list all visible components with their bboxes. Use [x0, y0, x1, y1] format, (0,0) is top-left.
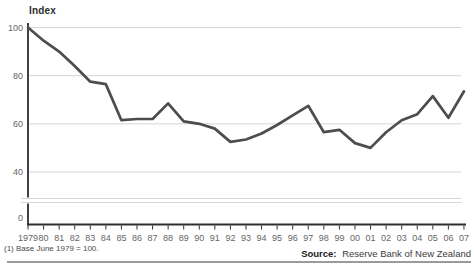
x-tick-label: 90: [194, 233, 204, 243]
x-tick-label: 86: [132, 233, 142, 243]
bottom-divider: [7, 261, 471, 263]
x-tick-label: 83: [85, 233, 95, 243]
y-tick-label: 40: [13, 167, 23, 177]
source-label: Source:: [301, 248, 336, 259]
x-tick-label: 80: [39, 233, 49, 243]
x-tick-label: 93: [241, 233, 251, 243]
y-tick-label: 0: [18, 213, 23, 223]
x-tick-label: 02: [381, 233, 391, 243]
x-tick-label: 92: [225, 233, 235, 243]
x-tick-label: 05: [428, 233, 438, 243]
x-tick-label: 88: [163, 233, 173, 243]
exchange-rate-line-chart: 1979808182838485868788899091929394959697…: [0, 0, 474, 267]
chart-figure: 1979808182838485868788899091929394959697…: [0, 0, 474, 267]
x-tick-label: 00: [350, 233, 360, 243]
x-tick-label: 04: [412, 233, 422, 243]
x-tick-label: 81: [54, 233, 64, 243]
y-tick-label: 80: [13, 71, 23, 81]
x-tick-label: 03: [397, 233, 407, 243]
x-tick-label: 94: [257, 233, 267, 243]
x-tick-label: 01: [366, 233, 376, 243]
x-tick-label: 06: [443, 233, 453, 243]
chart-source: Source: Reserve Bank of New Zealand: [301, 248, 471, 259]
y-tick-label: 60: [13, 119, 23, 129]
x-tick-label: 95: [272, 233, 282, 243]
x-tick-label: 99: [334, 233, 344, 243]
x-tick-label: 96: [288, 233, 298, 243]
x-tick-label: 1979: [18, 233, 38, 243]
x-tick-label: 07: [459, 233, 469, 243]
x-tick-label: 98: [319, 233, 329, 243]
y-axis-title: Index: [29, 5, 56, 16]
x-tick-label: 91: [210, 233, 220, 243]
source-text: Reserve Bank of New Zealand: [339, 248, 471, 259]
y-tick-label: 100: [8, 23, 23, 33]
x-tick-label: 89: [179, 233, 189, 243]
x-tick-label: 85: [116, 233, 126, 243]
x-tick-label: 87: [148, 233, 158, 243]
chart-footnote: (1) Base June 1979 = 100.: [4, 244, 99, 253]
x-tick-label: 97: [303, 233, 313, 243]
x-tick-label: 82: [70, 233, 80, 243]
x-tick-label: 84: [101, 233, 111, 243]
index-series-line: [28, 28, 464, 148]
